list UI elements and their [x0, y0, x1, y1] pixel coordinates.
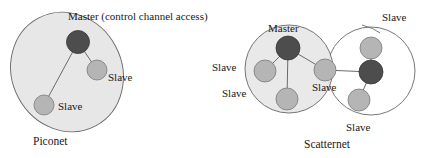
bluetooth-topology-figure: Master (control channel access) Slave Sl…: [0, 0, 422, 158]
piconet-slave-node-bottom[interactable]: [34, 95, 54, 115]
scatternet-bottom-right-slave-label: Slave: [346, 122, 370, 133]
scatternet-right-bottom-slave-node[interactable]: [348, 89, 370, 111]
piconet-slave-node-right[interactable]: [87, 60, 107, 80]
piconet-slave-right-label: Slave: [108, 72, 132, 83]
scatternet-caption: Scatternet: [304, 139, 350, 150]
piconet-header-label: Master (control channel access): [68, 11, 208, 22]
scatternet-left-bottom-slave-node[interactable]: [276, 88, 298, 110]
piconet-slave-bottom-label: Slave: [58, 101, 82, 112]
scatternet-bridge-slave-node[interactable]: [314, 59, 336, 81]
scatternet-master-label: Master: [268, 23, 299, 34]
scatternet-right-top-slave-node[interactable]: [360, 37, 382, 59]
scatternet-right-master-node[interactable]: [359, 60, 383, 84]
scatternet-top-right-slave-label: Slave: [382, 12, 406, 23]
piconet-caption: Piconet: [33, 136, 68, 147]
scatternet-left-slave-node[interactable]: [254, 60, 276, 82]
scatternet-bottom-left-slave-label: Slave: [222, 88, 246, 99]
scatternet-bridge-slave-label: Slave: [312, 82, 336, 93]
scatternet-group: [245, 25, 415, 115]
scatternet-left-slave-label: Slave: [212, 62, 236, 73]
piconet-master-node[interactable]: [67, 31, 90, 54]
scatternet-left-master-node[interactable]: [276, 36, 300, 60]
